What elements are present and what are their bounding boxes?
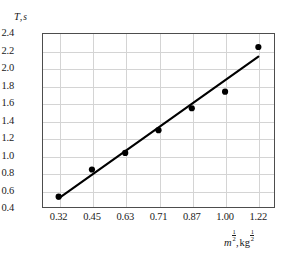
gridline-horizontal (43, 87, 274, 88)
gridline-vertical (259, 34, 260, 207)
gridline-horizontal (43, 157, 274, 158)
x-axis-separator: , (236, 237, 239, 248)
y-axis-tick-label: 1.4 (0, 116, 14, 127)
gridline-horizontal (43, 104, 274, 105)
y-axis-unit: s (23, 12, 27, 22)
x-axis-variable: m (224, 237, 232, 248)
plot-area (42, 33, 275, 208)
y-axis-tick-label: 2.0 (0, 63, 14, 74)
y-axis-tick-label: 1.2 (0, 133, 14, 144)
gridline-horizontal (43, 69, 274, 70)
y-axis-tick-label: 1.8 (0, 81, 14, 92)
gridline-horizontal (43, 192, 274, 193)
gridline-vertical (126, 34, 127, 207)
y-axis-tick-label: 0.8 (0, 168, 14, 179)
gridline-horizontal (43, 139, 274, 140)
y-axis-tick-label: 0.6 (0, 186, 14, 197)
gridline-horizontal (43, 174, 274, 175)
scatter-chart: T, s 2.42.22.01.81.61.41.21.00.80.60.4 0… (0, 0, 293, 260)
gridline-vertical (226, 34, 227, 207)
gridline-vertical (193, 34, 194, 207)
gridline-vertical (60, 34, 61, 207)
x-axis-unit-exponent: 12 (250, 229, 254, 242)
gridline-horizontal (43, 52, 274, 53)
x-axis-title: m12, kg12 (224, 229, 254, 249)
y-axis-title: T, s (14, 11, 27, 23)
gridline-vertical (160, 34, 161, 207)
y-axis-tick-label: 1.6 (0, 98, 14, 109)
gridline-horizontal (43, 122, 274, 123)
y-axis-tick-label: 0.4 (0, 203, 14, 214)
gridline-vertical (93, 34, 94, 207)
y-axis-tick-label: 2.4 (0, 28, 14, 39)
x-axis-unit: kg (240, 237, 251, 248)
y-axis-tick-label: 2.2 (0, 46, 14, 57)
x-axis-tick-label: 1.22 (235, 211, 281, 222)
y-axis-tick-label: 1.0 (0, 151, 14, 162)
